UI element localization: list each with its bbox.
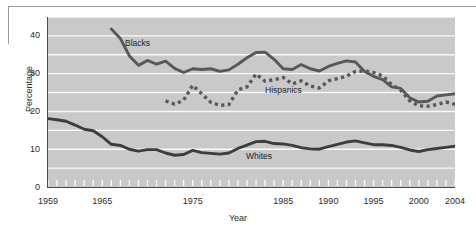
y-tick-label-30: 30: [0, 69, 40, 78]
plot-area: [48, 17, 455, 187]
x-tick-label-2000: 2000: [399, 196, 439, 206]
plot-canvas: [48, 17, 455, 187]
x-tick-label-2004: 2004: [435, 196, 475, 206]
x-tick-label-1965: 1965: [82, 196, 122, 206]
x-tick-label-1990: 1990: [308, 196, 348, 206]
x-axis-line: [48, 187, 455, 188]
page-rule-top: [8, 6, 476, 7]
y-tick-label-0: 0: [0, 183, 40, 192]
series-label-hispanics: Hispanics: [265, 86, 302, 95]
x-tick-label-1975: 1975: [173, 196, 213, 206]
series-label-blacks: Blacks: [125, 39, 150, 48]
series-label-whites: Whites: [246, 152, 272, 161]
poverty-rate-chart-figure: 403020100 195919651975198519901995200020…: [0, 0, 476, 243]
y-tick-label-40: 40: [0, 31, 40, 40]
y-tick-label-20: 20: [0, 107, 40, 116]
y-axis-line: [47, 17, 48, 188]
x-tick-label-1995: 1995: [354, 196, 394, 206]
x-tick-label-1959: 1959: [28, 196, 68, 206]
y-tick-label-10: 10: [0, 145, 40, 154]
x-tick-label-1985: 1985: [263, 196, 303, 206]
y-axis-title: Percentage: [24, 49, 34, 129]
x-axis-title: Year: [0, 213, 476, 223]
